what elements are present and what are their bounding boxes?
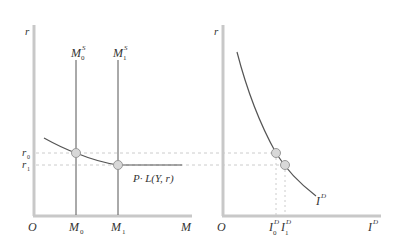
svg-text:D: D xyxy=(273,218,279,226)
svg-text:1: 1 xyxy=(123,54,127,62)
r1-label: r 1 xyxy=(22,158,30,172)
equilibrium-point-1 xyxy=(114,161,123,170)
money-demand-curve xyxy=(44,138,182,165)
equilibrium-point-0 xyxy=(72,149,81,158)
i1-label: I D 1 xyxy=(280,218,291,237)
svg-text:0: 0 xyxy=(80,228,84,236)
svg-text:D: D xyxy=(372,218,378,226)
svg-text:0: 0 xyxy=(273,229,277,237)
right-y-axis-label: r xyxy=(214,25,219,37)
svg-text:0: 0 xyxy=(27,154,30,160)
money-supply-1-label: M S 1 xyxy=(112,44,128,62)
right-origin-label: O xyxy=(217,220,226,234)
left-origin-label: O xyxy=(28,220,37,234)
svg-text:1: 1 xyxy=(27,166,30,172)
svg-text:S: S xyxy=(82,44,86,52)
money-market-investment-diagram: r O M M S 0 M S 1 r 0 r 1 M 0 M xyxy=(0,0,412,248)
i0-label: I D 0 xyxy=(268,218,279,237)
svg-text:S: S xyxy=(124,44,128,52)
investment-point-0 xyxy=(272,149,281,158)
money-demand-label: P· L(Y, r) xyxy=(132,172,174,185)
investment-curve-label: I D xyxy=(315,192,326,208)
svg-text:D: D xyxy=(285,218,291,226)
svg-text:M: M xyxy=(68,220,80,234)
left-panel-money-market: r O M M S 0 M S 1 r 0 r 1 M 0 M xyxy=(22,25,192,236)
right-panel-investment: r O I D I D I D 0 I D 1 xyxy=(214,25,381,237)
svg-text:D: D xyxy=(320,192,326,200)
investment-point-1 xyxy=(281,161,290,170)
svg-text:1: 1 xyxy=(122,228,126,236)
money-supply-0-label: M S 0 xyxy=(70,44,86,62)
svg-text:0: 0 xyxy=(81,54,85,62)
left-x-axis-label: M xyxy=(180,220,192,234)
right-x-axis-label: I D xyxy=(367,218,378,234)
svg-text:M: M xyxy=(110,220,122,234)
svg-text:1: 1 xyxy=(285,229,289,237)
left-y-axis-label: r xyxy=(25,25,30,37)
m1-label: M 1 xyxy=(110,220,126,236)
m0-label: M 0 xyxy=(68,220,84,236)
